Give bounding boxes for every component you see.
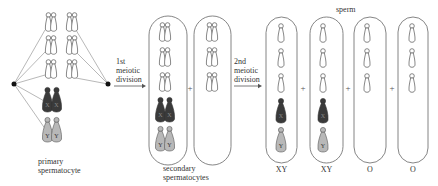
sperm-1: [266, 17, 297, 163]
label-line: meiotic: [116, 66, 142, 75]
sperm-genotype-1: XY: [266, 165, 297, 174]
second-division-arrow: [234, 84, 262, 88]
plus-sign: +: [389, 83, 394, 93]
label-line: meiotic: [234, 66, 260, 75]
label-line: division: [116, 75, 142, 84]
secondary-spermatocytes-label: secondary spermatocytes: [163, 164, 209, 182]
sperm-2: [310, 17, 343, 163]
plus-sign: +: [300, 83, 305, 93]
sperm-3: [354, 17, 386, 163]
label-line: 1st: [116, 57, 142, 66]
label-line: division: [234, 75, 260, 84]
plus-sign: +: [187, 83, 192, 93]
centrosome-dot: [106, 82, 111, 87]
first-division-label: 1st meiotic division: [116, 57, 142, 84]
plus-sign: +: [345, 83, 350, 93]
primary-spermatocyte-label: primary spermatocyte: [38, 157, 81, 175]
secondary-spermatocyte-1: [149, 16, 187, 165]
first-division-arrow: [114, 84, 146, 88]
sperm-label: sperm: [336, 5, 356, 14]
label-line: spermatocytes: [163, 173, 209, 182]
label-line: spermatocyte: [38, 166, 81, 175]
centrosome-dot: [12, 82, 17, 87]
label-line: primary: [38, 157, 81, 166]
label-line: 2nd: [234, 57, 260, 66]
sperm-genotype-3: O: [354, 165, 386, 174]
primary-spermatocyte: [12, 13, 111, 142]
second-division-label: 2nd meiotic division: [234, 57, 260, 84]
sperm-4: [398, 17, 428, 163]
label-line: secondary: [163, 164, 209, 173]
secondary-spermatocyte-2: [194, 16, 231, 165]
sperm-genotype-2: XY: [310, 165, 343, 174]
sperm-genotype-4: O: [398, 165, 428, 174]
